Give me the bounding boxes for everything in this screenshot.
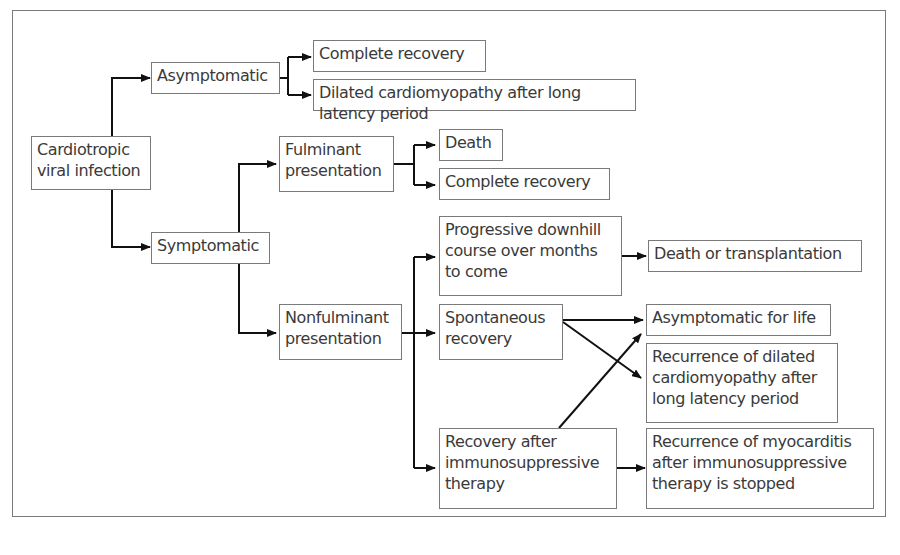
- node-symptomatic: Symptomatic: [151, 232, 270, 264]
- node-recovery-after-immunosuppressive: Recovery after immunosuppressive therapy: [439, 428, 617, 509]
- node-recurrence-of-myocarditis: Recurrence of myocarditis after immunosu…: [646, 428, 874, 509]
- node-fulminant-death: Death: [439, 129, 503, 161]
- node-asymptomatic-for-life: Asymptomatic for life: [646, 304, 831, 336]
- node-death-or-transplantation: Death or transplantation: [648, 240, 862, 272]
- arrow-spontaneous-recurrence: [563, 322, 641, 378]
- node-spontaneous-recovery: Spontaneous recovery: [439, 304, 563, 360]
- node-asymptomatic: Asymptomatic: [151, 62, 280, 94]
- node-recurrence-dilated-cardiomyopathy: Recurrence of dilated cardiomyopathy aft…: [646, 343, 838, 423]
- arrow-symptomatic-fulminant: [239, 164, 276, 232]
- node-fulminant-complete-recovery: Complete recovery: [439, 168, 610, 200]
- node-nonfulminant-presentation: Nonfulminant presentation: [279, 304, 402, 360]
- node-progressive-downhill: Progressive downhill course over months …: [439, 216, 622, 296]
- arrow-symptomatic-nonfulminant: [239, 264, 276, 333]
- arrow-root-asymptomatic: [112, 78, 150, 136]
- node-cardiotropic-viral-infection: Cardiotropic viral infection: [31, 136, 151, 190]
- node-asym-dilated-cardiomyopathy: Dilated cardiomyopathy after long latenc…: [313, 79, 636, 111]
- node-asym-complete-recovery: Complete recovery: [313, 40, 486, 72]
- node-fulminant-presentation: Fulminant presentation: [279, 136, 394, 192]
- arrow-root-symptomatic: [112, 190, 150, 247]
